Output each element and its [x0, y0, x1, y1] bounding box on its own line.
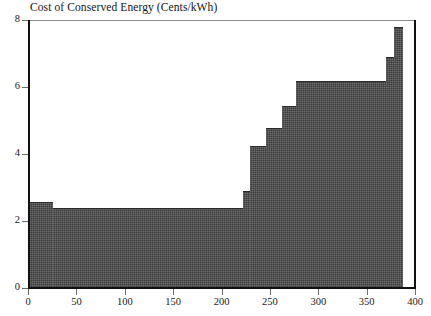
y-axis-label: 2	[2, 214, 20, 225]
x-axis-label: 0	[8, 296, 48, 307]
right-axis-line	[414, 20, 416, 289]
supply-step	[243, 191, 250, 288]
supply-curve-steps	[28, 20, 415, 288]
supply-step	[53, 208, 243, 288]
supply-step	[28, 202, 53, 288]
y-axis-line	[28, 20, 30, 289]
x-axis-tick	[173, 289, 174, 295]
supply-step	[386, 57, 394, 288]
x-axis-tick	[367, 289, 368, 295]
x-axis-tick	[318, 289, 319, 295]
supply-step	[250, 146, 266, 288]
x-axis-label: 300	[298, 296, 338, 307]
x-axis-label: 200	[202, 296, 242, 307]
y-axis-label: 6	[2, 80, 20, 91]
x-axis-label: 250	[250, 296, 290, 307]
x-axis-label: 400	[395, 296, 431, 307]
x-axis-label: 350	[347, 296, 387, 307]
y-axis-label: 0	[2, 281, 20, 292]
x-axis-tick	[125, 289, 126, 295]
supply-step	[296, 81, 386, 288]
supply-step	[394, 27, 404, 288]
y-axis-tick	[22, 87, 28, 88]
x-axis-label: 100	[105, 296, 145, 307]
x-axis-tick	[415, 289, 416, 295]
chart-title: Cost of Conserved Energy (Cents/kWh)	[30, 1, 217, 13]
x-axis-tick	[270, 289, 271, 295]
y-axis-tick	[22, 221, 28, 222]
y-axis-tick	[22, 20, 28, 21]
x-axis-tick	[222, 289, 223, 295]
x-axis-tick	[76, 289, 77, 295]
x-axis-tick	[28, 289, 29, 295]
chart-container: Cost of Conserved Energy (Cents/kWh) 024…	[0, 0, 431, 316]
supply-step	[266, 128, 282, 288]
y-axis-tick	[22, 154, 28, 155]
x-axis-label: 150	[153, 296, 193, 307]
supply-step	[282, 106, 296, 288]
y-axis-label: 8	[2, 13, 20, 24]
y-axis-label: 4	[2, 147, 20, 158]
x-axis-label: 50	[56, 296, 96, 307]
